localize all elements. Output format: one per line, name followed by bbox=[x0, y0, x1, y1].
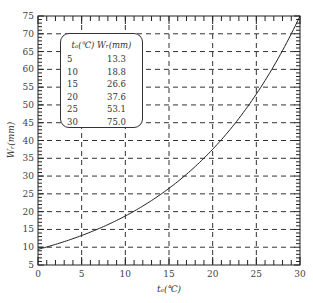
y-tick-label: 20 bbox=[23, 207, 35, 217]
x-tick-label: 30 bbox=[294, 269, 306, 279]
legend-t-value: 30 bbox=[67, 117, 78, 127]
x-tick-label: 10 bbox=[120, 269, 132, 279]
legend-header: tₐ(℃) Wᵣ(mm) bbox=[61, 40, 142, 50]
y-tick-label: 35 bbox=[23, 153, 35, 163]
legend-row: 1526.6 bbox=[61, 79, 142, 91]
data-table-legend: tₐ(℃) Wᵣ(mm) 513.31018.81526.62037.62553… bbox=[60, 33, 143, 128]
x-tick-label: 5 bbox=[79, 269, 85, 279]
legend-w-value: 18.8 bbox=[107, 67, 126, 77]
legend-row: 1018.8 bbox=[61, 67, 142, 79]
legend-row: 3075.0 bbox=[61, 117, 142, 129]
x-tick-label: 25 bbox=[251, 269, 263, 279]
y-tick-label: 10 bbox=[23, 242, 35, 252]
y-tick-label: 65 bbox=[23, 47, 35, 57]
y-tick-label: 45 bbox=[23, 118, 35, 128]
y-tick-label: 5 bbox=[28, 260, 34, 270]
y-tick-label: 55 bbox=[23, 82, 35, 92]
y-tick-label: 60 bbox=[23, 64, 35, 74]
legend-row: 2037.6 bbox=[61, 92, 142, 104]
y-tick-label: 75 bbox=[23, 11, 35, 21]
legend-w-value: 26.6 bbox=[107, 79, 126, 89]
x-tick-label: 0 bbox=[35, 269, 41, 279]
legend-t-value: 5 bbox=[67, 54, 72, 64]
legend-w-value: 53.1 bbox=[107, 104, 126, 114]
x-tick-label: 20 bbox=[207, 269, 219, 279]
x-axis-label: tₐ(℃) bbox=[157, 284, 182, 294]
y-tick-label: 30 bbox=[23, 171, 35, 181]
y-axis-label: Wᵣ(mm) bbox=[6, 121, 16, 158]
legend-t-value: 10 bbox=[67, 67, 78, 77]
legend-t-value: 25 bbox=[67, 104, 78, 114]
legend-w-value: 37.6 bbox=[107, 92, 126, 102]
y-tick-label: 50 bbox=[23, 100, 35, 110]
legend-w-value: 13.3 bbox=[107, 54, 126, 64]
legend-row: 2553.1 bbox=[61, 104, 142, 116]
legend-t-value: 20 bbox=[67, 92, 78, 102]
y-tick-label: 40 bbox=[23, 136, 35, 146]
x-tick-label: 15 bbox=[163, 269, 175, 279]
legend-row: 513.3 bbox=[61, 54, 142, 66]
legend-t-value: 15 bbox=[67, 79, 78, 89]
y-tick-label: 15 bbox=[23, 224, 35, 234]
chart: 5101520253035404550556065707505101520253… bbox=[0, 0, 313, 303]
y-tick-label: 70 bbox=[23, 29, 35, 39]
y-tick-label: 25 bbox=[23, 189, 35, 199]
legend-w-value: 75.0 bbox=[107, 117, 126, 127]
